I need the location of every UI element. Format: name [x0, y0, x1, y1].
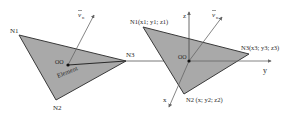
left-normal-label: v n	[78, 11, 85, 21]
y-axis-label: y	[263, 66, 267, 75]
right-n3-label: N3(x3; y3; z3)	[241, 44, 279, 52]
right-triangle	[143, 27, 249, 94]
right-n1-label: N1(x1; y1; z1)	[130, 18, 168, 26]
triangle-element-diagram: N1 N2 N3 OO Element v n N1(x1; y1; z1) N…	[0, 0, 299, 116]
left-origin-label: OO	[55, 59, 64, 65]
right-element: N1(x1; y1; z1) N2 (x; y2; z2) N3(x3; y3;…	[130, 11, 279, 108]
z-axis-label: z	[183, 12, 186, 20]
left-n2-label: N2	[53, 104, 62, 112]
right-origin-label: OO	[178, 54, 187, 60]
svg-text:n: n	[216, 15, 219, 20]
right-n2-label: N2 (x; y2; z2)	[186, 96, 223, 104]
left-n1-label: N1	[10, 27, 19, 35]
right-origin-point	[187, 59, 190, 62]
x-axis-label: x	[163, 96, 167, 104]
right-normal-label: v n	[212, 11, 219, 21]
left-n3-label: N3	[126, 51, 135, 59]
svg-text:n: n	[82, 15, 85, 20]
